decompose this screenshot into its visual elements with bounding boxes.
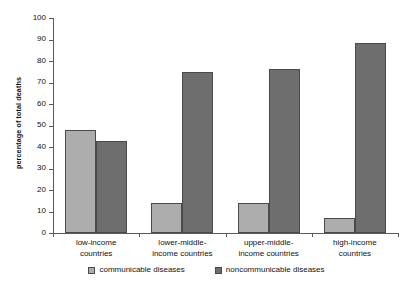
bar-communicable (238, 203, 269, 233)
bar-noncommunicable (355, 43, 386, 233)
legend-item[interactable]: communicable diseases (88, 265, 184, 275)
plot-area: 0102030405060708090100 (53, 18, 398, 233)
y-axis-tick-label: 30 (22, 163, 46, 173)
y-axis-tick: 100 (49, 18, 53, 19)
y-axis-tick: 50 (49, 126, 53, 127)
x-axis-tick (312, 233, 313, 237)
y-axis-tick: 60 (49, 104, 53, 105)
y-axis-tick-label: 20 (22, 185, 46, 195)
bar-chart: percentage of total deaths 0102030405060… (0, 0, 413, 289)
x-axis-tick (398, 233, 399, 237)
bar-communicable (151, 203, 182, 233)
bar-communicable (324, 218, 355, 233)
bar-noncommunicable (96, 141, 127, 233)
x-axis-category-label: low-income countries (53, 238, 139, 259)
bar-noncommunicable (182, 72, 213, 233)
y-axis-tick: 20 (49, 190, 53, 191)
y-axis-tick-label: 40 (22, 142, 46, 152)
x-axis-category-label: upper-middle- income countries (226, 238, 312, 259)
y-axis-tick: 40 (49, 147, 53, 148)
legend-item[interactable]: noncommunicable diseases (215, 265, 325, 275)
y-axis-tick: 90 (49, 40, 53, 41)
x-axis-tick (139, 233, 140, 237)
bar-noncommunicable (269, 69, 300, 233)
x-axis-category-label: high-income countries (312, 238, 398, 259)
y-axis-tick-label: 90 (22, 34, 46, 44)
y-axis-tick: 70 (49, 83, 53, 84)
y-axis-tick: 10 (49, 212, 53, 213)
x-axis-tick (226, 233, 227, 237)
y-axis-tick-label: 60 (22, 99, 46, 109)
y-axis-tick: 80 (49, 61, 53, 62)
y-axis-tick-label: 80 (22, 56, 46, 66)
bar-communicable (65, 130, 96, 233)
y-axis-tick-label: 100 (22, 13, 46, 23)
x-axis-category-label: lower-middle- income countries (139, 238, 225, 259)
y-axis-tick-label: 10 (22, 206, 46, 216)
chart-legend: communicable diseasesnoncommunicable dis… (0, 265, 413, 275)
legend-swatch-icon (88, 267, 95, 274)
y-axis-tick-label: 50 (22, 120, 46, 130)
y-axis-tick: 30 (49, 169, 53, 170)
legend-label: noncommunicable diseases (226, 265, 325, 275)
y-axis-title: percentage of total deaths (14, 0, 23, 58)
x-axis-tick (53, 233, 54, 237)
y-axis-tick-label: 0 (22, 228, 46, 238)
legend-swatch-icon (215, 267, 222, 274)
y-axis-tick-label: 70 (22, 77, 46, 87)
legend-label: communicable diseases (99, 265, 184, 275)
y-axis-line (53, 18, 54, 233)
